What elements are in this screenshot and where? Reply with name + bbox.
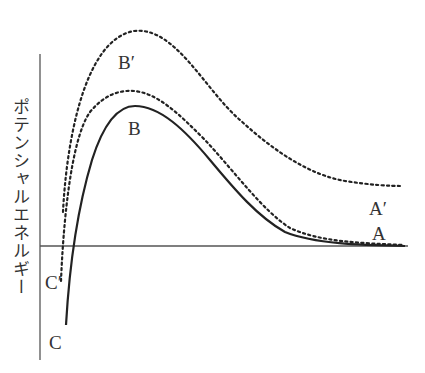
solid-curve <box>66 106 405 325</box>
label-c: C <box>49 332 62 353</box>
label-a-prime: A′ <box>369 198 387 219</box>
label-b: B <box>128 118 141 139</box>
label-a: A <box>372 223 386 244</box>
label-b-prime: B′ <box>118 52 135 73</box>
potential-energy-diagram: B′ B C′ C A′ A <box>0 0 425 373</box>
label-c-prime: C′ <box>45 272 62 293</box>
